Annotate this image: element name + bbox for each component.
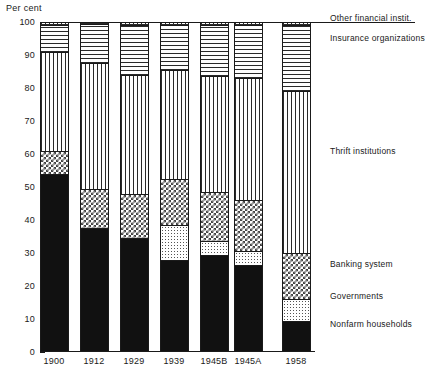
segment-1945B-governments [200, 241, 229, 254]
segment-1945B-other-financial-instit [200, 22, 229, 25]
segment-1912-banking-system [80, 189, 109, 229]
segment-1939-nonfarm-households [160, 260, 189, 352]
segment-1929-other-financial-instit [120, 22, 149, 25]
bar-1912 [80, 22, 109, 352]
y-tick-label-60: 60 [0, 150, 40, 159]
segment-1939-banking-system [160, 179, 189, 225]
x-axis-label-1945A: 1945A [225, 356, 271, 366]
y-tick-label-20: 20 [0, 282, 40, 291]
segment-1945B-banking-system [200, 192, 229, 242]
legend-label-households: Nonfarm households [330, 319, 412, 329]
segment-1929-insurance-organizations [120, 25, 149, 75]
y-tick-label-30: 30 [0, 249, 40, 258]
segment-1958-thrift-institutions [282, 91, 311, 253]
segment-1900-nonfarm-households [40, 174, 69, 352]
segment-1945A-banking-system [234, 200, 263, 251]
segment-1912-other-financial-instit [80, 22, 109, 24]
segment-1958-governments [282, 299, 311, 320]
y-tick-label-10: 10 [0, 315, 40, 324]
segment-1945B-insurance-organizations [200, 25, 229, 76]
bar-1929 [120, 22, 149, 352]
segment-1958-nonfarm-households [282, 321, 311, 352]
legend-label-banking: Banking system [330, 259, 393, 269]
segment-1958-banking-system [282, 253, 311, 299]
segment-1939-thrift-institutions [160, 70, 189, 179]
bar-1945B [200, 22, 229, 352]
bar-1958 [282, 22, 311, 352]
x-axis-label-1958: 1958 [273, 356, 319, 366]
segment-1912-insurance-organizations [80, 24, 109, 64]
segment-1945A-thrift-institutions [234, 78, 263, 200]
segment-1929-nonfarm-households [120, 238, 149, 352]
bar-1945A [234, 22, 263, 352]
y-tick-label-90: 90 [0, 51, 40, 60]
y-tick-mark-0 [40, 352, 45, 353]
y-tick-label-70: 70 [0, 117, 40, 126]
y-tick-label-100: 100 [0, 18, 40, 27]
legend-label-governments: Governments [330, 291, 383, 301]
segment-1939-other-financial-instit [160, 22, 189, 25]
bar-1939 [160, 22, 189, 352]
segment-1900-insurance-organizations [40, 25, 69, 51]
segment-1939-insurance-organizations [160, 25, 189, 70]
y-tick-label-40: 40 [0, 216, 40, 225]
segment-1958-insurance-organizations [282, 25, 311, 91]
segment-1912-nonfarm-households [80, 228, 109, 352]
segment-1912-thrift-institutions [80, 63, 109, 188]
segment-1900-thrift-institutions [40, 52, 69, 151]
y-tick-label-80: 80 [0, 84, 40, 93]
segment-1900-banking-system [40, 151, 69, 174]
y-axis-title: Per cent [6, 3, 42, 13]
segment-1945A-other-financial-instit [234, 22, 263, 25]
segment-1900-other-financial-instit [40, 22, 69, 25]
y-tick-label-50: 50 [0, 183, 40, 192]
segment-1929-thrift-institutions [120, 75, 149, 194]
segment-1945B-nonfarm-households [200, 255, 229, 352]
segment-1945B-thrift-institutions [200, 76, 229, 192]
legend-label-insurance: Insurance organizations [330, 33, 425, 43]
segment-1939-governments [160, 225, 189, 260]
segment-1958-other-financial-instit [282, 22, 311, 25]
segment-1945A-insurance-organizations [234, 25, 263, 78]
segment-1945A-governments [234, 251, 263, 264]
legend-label-other: Other financial instit. [330, 13, 412, 23]
bar-1900 [40, 22, 69, 352]
legend-label-thrift: Thrift institutions [330, 146, 396, 156]
segment-1929-banking-system [120, 194, 149, 239]
segment-1945A-nonfarm-households [234, 265, 263, 352]
